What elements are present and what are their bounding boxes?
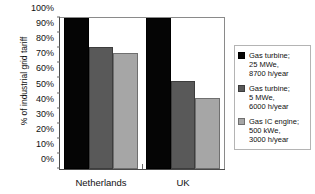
legend-label-line: Gas turbine; (249, 51, 290, 60)
chart-legend: Gas turbine;25 MWe,8700 h/yearGas turbin… (234, 45, 311, 150)
legend-label: Gas IC engine;500 kWe,3000 h/year (249, 117, 299, 144)
y-tick-label: 30% (36, 109, 60, 119)
x-tick-label: Netherlands (60, 177, 142, 188)
bar-chart-figure: % of industrial grid tariff 100%90%80%70… (0, 0, 315, 194)
bar-groups: NetherlandsUK (60, 18, 224, 169)
bar[interactable] (64, 18, 89, 169)
legend-item[interactable]: Gas turbine;25 MWe,8700 h/year (238, 51, 307, 78)
legend-label-line: 500 kWe, (249, 126, 299, 135)
legend-label-line: 6000 h/year (249, 102, 290, 111)
y-tick-label: 50% (36, 79, 60, 89)
legend-label-line: 25 MWe, (249, 60, 290, 69)
plot-area: 100%90%80%70%60%50%40%30%20%10%0% Nether… (59, 17, 225, 170)
x-tick-mark (142, 164, 143, 169)
legend-item[interactable]: Gas IC engine;500 kWe,3000 h/year (238, 117, 307, 144)
y-tick-label: 40% (36, 94, 60, 104)
legend-item[interactable]: Gas turbine;5 MWe,6000 h/year (238, 84, 307, 111)
legend-swatch-icon (238, 52, 245, 59)
x-tick-label: UK (142, 177, 224, 188)
y-tick-label: 10% (36, 139, 60, 149)
legend-label-line: 3000 h/year (249, 135, 299, 144)
bar-group: Netherlands (60, 18, 142, 169)
legend-swatch-icon (238, 85, 245, 92)
legend-label-line: 5 MWe, (249, 93, 290, 102)
y-axis-title: % of industrial grid tariff (19, 1, 29, 161)
bar[interactable] (171, 81, 196, 169)
legend-label-line: Gas turbine; (249, 84, 290, 93)
y-tick-label: 100% (31, 3, 60, 13)
legend-label: Gas turbine;25 MWe,8700 h/year (249, 51, 290, 78)
bar[interactable] (195, 98, 220, 169)
y-tick-label: 90% (36, 18, 60, 28)
y-tick-label: 70% (36, 48, 60, 58)
bar[interactable] (89, 47, 114, 169)
y-tick-label: 80% (36, 33, 60, 43)
legend-label-line: 8700 h/year (249, 69, 290, 78)
bar-set (64, 18, 138, 169)
y-tick-label: 20% (36, 124, 60, 134)
y-tick-label: 60% (36, 63, 60, 73)
bar-group: UK (142, 18, 224, 169)
bar[interactable] (146, 18, 171, 169)
legend-label: Gas turbine;5 MWe,6000 h/year (249, 84, 290, 111)
legend-swatch-icon (238, 118, 245, 125)
legend-label-line: Gas IC engine; (249, 117, 299, 126)
bar[interactable] (113, 53, 138, 169)
y-tick-label: 0% (41, 154, 60, 164)
bar-set (146, 18, 220, 169)
